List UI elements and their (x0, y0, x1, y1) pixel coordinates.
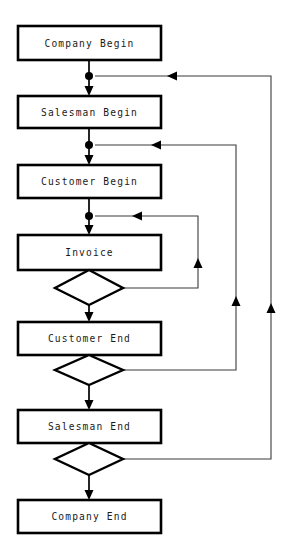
node-salesman-end[interactable]: Salesman End (18, 410, 161, 443)
arrow-head-salesman-end (85, 400, 94, 410)
decision-invoice[interactable] (55, 270, 123, 305)
node-salesman-end-label: Salesman End (48, 421, 131, 432)
arrow-head-customer-begin (85, 155, 94, 165)
arrow-head-loop-salesman-up (267, 303, 276, 313)
arrow-head-company-end (85, 490, 94, 500)
node-salesman-begin[interactable]: Salesman Begin (18, 96, 161, 128)
node-company-end-label: Company End (51, 511, 127, 522)
node-customer-end-label: Customer End (48, 333, 131, 344)
junction-dot-salesman (85, 72, 93, 80)
arrow-head-loop-customer-in (151, 141, 161, 150)
node-invoice[interactable]: Invoice (18, 235, 161, 270)
junction-dot-invoice (85, 212, 93, 220)
node-invoice-label: Invoice (65, 247, 113, 258)
junction-dot-customer (85, 141, 93, 149)
node-salesman-begin-label: Salesman Begin (41, 107, 138, 118)
node-customer-begin-label: Customer Begin (41, 176, 138, 187)
node-company-begin-label: Company Begin (44, 38, 134, 49)
arrow-head-loop-invoice-up (194, 258, 203, 268)
arrow-head-loop-invoice-in (132, 212, 142, 221)
arrow-head-loop-customer-up (232, 296, 241, 306)
flowchart-svg: Company Begin Salesman Begin Customer Be… (0, 0, 284, 544)
decision-customer-end[interactable] (55, 355, 123, 385)
node-company-begin[interactable]: Company Begin (18, 26, 161, 60)
arrow-head-customer-end (85, 312, 94, 322)
arrow-head-loop-salesman-in (167, 72, 177, 81)
node-company-end[interactable]: Company End (18, 500, 161, 533)
arrow-head-salesman-begin (85, 86, 94, 96)
decision-salesman-end[interactable] (55, 443, 123, 475)
flowchart-canvas: Company Begin Salesman Begin Customer Be… (0, 0, 284, 544)
arrow-head-invoice (85, 225, 94, 235)
node-customer-begin[interactable]: Customer Begin (18, 165, 161, 198)
node-customer-end[interactable]: Customer End (18, 322, 161, 355)
